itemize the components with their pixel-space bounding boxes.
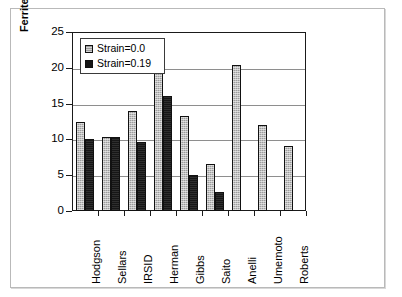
legend-item-label: Strain=0.0 xyxy=(97,43,145,54)
y-axis-tick-label: 10 xyxy=(38,133,64,144)
x-axis-tick xyxy=(124,211,125,216)
y-axis-tick-label: 15 xyxy=(38,98,64,109)
legend-item-strain-0-0: Strain=0.0 xyxy=(85,41,164,56)
x-axis-tick xyxy=(306,211,307,216)
legend-item-strain-0-19: Strain=0.19 xyxy=(85,56,164,71)
legend-swatch-icon xyxy=(85,45,93,53)
chart-legend: Strain=0.0 Strain=0.19 xyxy=(80,38,165,74)
gridline xyxy=(73,105,305,106)
legend-swatch-icon xyxy=(85,60,93,68)
x-axis-category-label: Gibbs xyxy=(194,255,206,284)
x-axis-tick xyxy=(280,211,281,216)
x-axis-category-label: Herman xyxy=(168,245,180,284)
gridline xyxy=(73,176,305,177)
legend-item-label: Strain=0.19 xyxy=(97,58,151,69)
y-axis-tick-label: 0 xyxy=(38,205,64,216)
y-axis-title-text: Ferrite grain size in microns xyxy=(18,0,30,32)
x-axis-category-label: Anelli xyxy=(246,257,258,284)
x-axis-tick xyxy=(228,211,229,216)
gridline xyxy=(73,140,305,141)
y-axis-tick xyxy=(66,211,72,212)
x-axis-tick xyxy=(176,211,177,216)
x-axis-category-label: Saito xyxy=(220,259,232,284)
chart-figure: Ferrite grain size in microns 0510152025… xyxy=(0,0,402,297)
y-axis-tick-label: 25 xyxy=(38,26,64,37)
x-axis-category-label: Umemoto xyxy=(272,236,284,284)
x-axis-category-label: Hodgson xyxy=(90,240,102,284)
x-axis-category-label: Sellars xyxy=(116,250,128,284)
y-axis-tick-label: 20 xyxy=(38,62,64,73)
y-axis-title: Ferrite grain size in microns xyxy=(16,0,30,32)
x-axis-tick xyxy=(254,211,255,216)
x-axis-category-label: IRSID xyxy=(142,255,154,284)
y-axis-tick-label: 5 xyxy=(38,169,64,180)
x-axis-tick xyxy=(150,211,151,216)
x-axis-category-label: Roberts xyxy=(298,245,310,284)
x-axis-tick xyxy=(202,211,203,216)
x-axis-tick xyxy=(98,211,99,216)
